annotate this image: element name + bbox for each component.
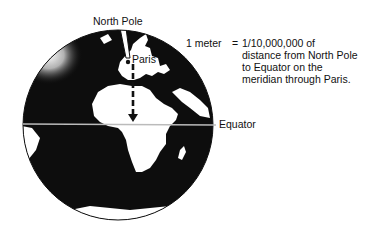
definition-line: meridian through Paris.: [186, 73, 358, 85]
paris-label: Paris: [132, 53, 156, 65]
equals-sign: =: [228, 37, 242, 49]
definition-line: 1/10,000,000 of: [242, 37, 315, 49]
definition-line: to Equator on the: [186, 61, 358, 73]
definition-line: distance from North Pole: [186, 49, 358, 61]
equator-label: Equator: [219, 118, 256, 130]
globe: [20, 27, 213, 226]
globe-illustration: [0, 0, 369, 234]
meter-definition-diagram: North Pole Paris Equator 1 meter = 1/10,…: [0, 0, 369, 234]
paris-dot: [126, 60, 130, 64]
north-pole-label: North Pole: [93, 15, 143, 27]
meter-definition-text: 1 meter = 1/10,000,000 of distance from …: [186, 37, 358, 85]
definition-term: 1 meter: [186, 37, 228, 49]
